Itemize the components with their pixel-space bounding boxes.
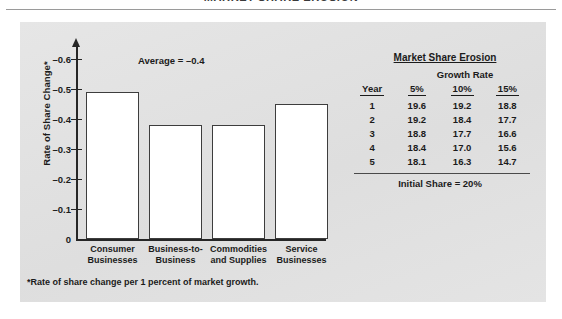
y-tick-mark bbox=[71, 89, 82, 90]
y-tick-mark bbox=[71, 179, 82, 180]
x-category-line: Service bbox=[263, 244, 340, 255]
plot-area: –0.6 –0.5 –0.4 –0.3 –0.2 –0.1 bbox=[76, 38, 326, 240]
y-tick-label: –0.5 bbox=[53, 84, 72, 95]
erosion-data-table: Year 5% 10% 15% 1 19.6 19.2 18.8 2 19.2 … bbox=[350, 83, 530, 169]
x-axis-line bbox=[76, 239, 326, 241]
x-category-line: Businesses bbox=[263, 255, 340, 266]
y-axis-label: Rate of Share Change* bbox=[41, 44, 52, 184]
title-divider bbox=[6, 9, 556, 10]
cell-15pct: 14.7 bbox=[485, 155, 530, 169]
cell-year: 2 bbox=[350, 112, 394, 126]
cell-year: 4 bbox=[350, 141, 394, 155]
cell-10pct: 18.4 bbox=[439, 112, 484, 126]
column-header-year: Year bbox=[350, 83, 394, 98]
y-tick-label: –0.2 bbox=[53, 174, 72, 185]
cell-10pct: 16.3 bbox=[439, 155, 484, 169]
y-tick-label: –0.4 bbox=[53, 114, 72, 125]
cell-15pct: 18.8 bbox=[485, 98, 530, 112]
bar-commodities-and-supplies[interactable] bbox=[212, 125, 265, 239]
cell-year: 1 bbox=[350, 98, 394, 112]
y-axis-line bbox=[76, 46, 78, 240]
cell-5pct: 18.4 bbox=[394, 141, 439, 155]
bar-consumer-businesses[interactable] bbox=[86, 92, 139, 239]
page-title: MARKET SHARE EROSION bbox=[0, 0, 562, 3]
y-tick-label: –0.1 bbox=[53, 204, 72, 215]
table-footer-note: Initial Share = 20% bbox=[350, 174, 530, 189]
cell-5pct: 18.8 bbox=[394, 126, 439, 140]
column-header-5pct: 5% bbox=[394, 83, 439, 98]
table-row: 3 18.8 17.7 16.6 bbox=[350, 126, 530, 140]
chart-footnote: *Rate of share change per 1 percent of m… bbox=[27, 277, 259, 287]
table-row: 2 19.2 18.4 17.7 bbox=[350, 112, 530, 126]
column-header-15pct: 15% bbox=[485, 83, 530, 98]
y-tick-mark bbox=[71, 149, 82, 150]
bar-service-businesses[interactable] bbox=[275, 104, 328, 239]
table-row: 1 19.6 19.2 18.8 bbox=[350, 98, 530, 112]
table-row: 5 18.1 16.3 14.7 bbox=[350, 155, 530, 169]
bar-business-to-business[interactable] bbox=[149, 125, 202, 239]
y-tick-label: –0.3 bbox=[53, 144, 72, 155]
exhibit-panel: Rate of Share Change* –0.6 –0.5 –0.4 –0.… bbox=[20, 22, 546, 302]
cell-10pct: 17.0 bbox=[439, 141, 484, 155]
y-tick-mark bbox=[71, 119, 82, 120]
table-group-header: Growth Rate bbox=[350, 69, 540, 80]
y-tick-label: –0.6 bbox=[53, 54, 72, 65]
cell-10pct: 19.2 bbox=[439, 98, 484, 112]
table-title: Market Share Erosion bbox=[350, 52, 540, 63]
cell-year: 3 bbox=[350, 126, 394, 140]
table-header-row: Year 5% 10% 15% bbox=[350, 83, 530, 98]
cell-5pct: 19.6 bbox=[394, 98, 439, 112]
average-annotation: Average = –0.4 bbox=[138, 55, 204, 66]
column-header-10pct: 10% bbox=[439, 83, 484, 98]
bar-chart: Rate of Share Change* –0.6 –0.5 –0.4 –0.… bbox=[20, 22, 340, 302]
cell-15pct: 15.6 bbox=[485, 141, 530, 155]
y-tick-label: 0 bbox=[66, 234, 71, 245]
cell-year: 5 bbox=[350, 155, 394, 169]
cell-10pct: 17.7 bbox=[439, 126, 484, 140]
table-row: 4 18.4 17.0 15.6 bbox=[350, 141, 530, 155]
market-share-erosion-table: Market Share Erosion Growth Rate Year 5%… bbox=[350, 52, 540, 189]
y-tick-mark bbox=[71, 209, 82, 210]
cell-5pct: 19.2 bbox=[394, 112, 439, 126]
y-tick-mark bbox=[71, 59, 82, 60]
x-category-label: Service Businesses bbox=[263, 244, 340, 266]
title-band: MARKET SHARE EROSION bbox=[0, 0, 562, 12]
cell-5pct: 18.1 bbox=[394, 155, 439, 169]
cell-15pct: 16.6 bbox=[485, 126, 530, 140]
cell-15pct: 17.7 bbox=[485, 112, 530, 126]
